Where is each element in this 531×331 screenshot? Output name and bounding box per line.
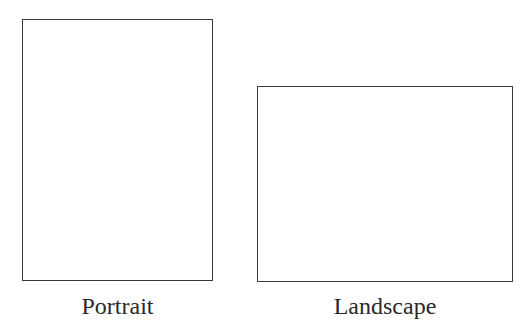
- portrait-page-rectangle: [22, 19, 213, 281]
- landscape-caption: Landscape: [257, 294, 513, 318]
- portrait-caption: Portrait: [22, 294, 213, 318]
- landscape-page-rectangle: [257, 86, 513, 282]
